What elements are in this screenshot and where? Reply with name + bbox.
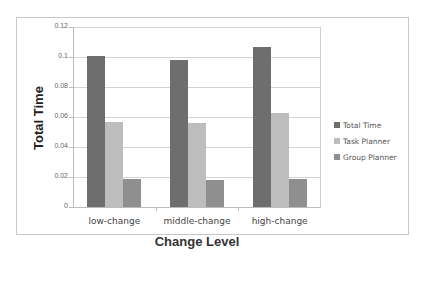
gridline [73, 27, 320, 28]
bar-task-planner-low-change [105, 122, 123, 208]
legend-label: Group Planner [343, 153, 397, 162]
gridline [73, 57, 320, 58]
legend-swatch-icon [334, 154, 340, 160]
y-tick-mark [69, 147, 73, 148]
legend-item: Task Planner [334, 133, 410, 149]
bar-group-planner-middle-change [206, 180, 224, 207]
x-tick-mark [156, 207, 157, 211]
bar-total-time-low-change [87, 56, 105, 208]
y-tick-label: 0.1 [30, 52, 68, 59]
x-tick-label: low-change [73, 216, 155, 226]
x-tick-mark [238, 207, 239, 211]
bar-total-time-high-change [253, 47, 271, 208]
y-tick-mark [69, 117, 73, 118]
y-tick-mark [69, 27, 73, 28]
y-tick-mark [69, 57, 73, 58]
legend-swatch-icon [334, 138, 340, 144]
y-axis-line [73, 27, 74, 208]
x-axis-title: Change Level [73, 234, 321, 249]
y-tick-mark [69, 87, 73, 88]
y-tick-label: 0.02 [30, 172, 68, 179]
x-tick-label: high-change [239, 216, 321, 226]
bar-task-planner-middle-change [188, 123, 206, 207]
bar-total-time-middle-change [170, 60, 188, 207]
bar-task-planner-high-change [271, 113, 289, 208]
y-tick-mark [69, 207, 73, 208]
bar-group-planner-low-change [123, 179, 141, 208]
legend-label: Total Time [343, 121, 381, 130]
y-tick-label: 0 [30, 202, 68, 209]
x-axis-line [73, 207, 321, 208]
gridline [73, 87, 320, 88]
legend-item: Group Planner [334, 149, 410, 165]
legend-swatch-icon [334, 122, 340, 128]
legend: Total TimeTask PlannerGroup Planner [334, 117, 410, 165]
y-tick-mark [69, 177, 73, 178]
y-tick-label: 0.12 [30, 22, 68, 29]
y-axis-title: Total Time [31, 86, 46, 150]
bar-group-planner-high-change [289, 179, 307, 208]
legend-label: Task Planner [343, 137, 390, 146]
x-tick-label: middle-change [156, 216, 238, 226]
legend-item: Total Time [334, 117, 410, 133]
